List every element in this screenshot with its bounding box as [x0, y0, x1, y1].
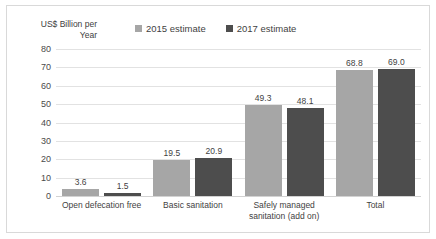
- bar-group: 49.348.1: [239, 49, 330, 196]
- bar-value-label: 3.6: [62, 177, 99, 187]
- y-axis-title: US$ Billion per Year: [19, 19, 97, 41]
- bar-slot: 20.9: [195, 49, 232, 196]
- y-axis-tick-label: 0: [46, 191, 51, 201]
- legend-item-label: 2017 estimate: [237, 23, 297, 34]
- bar[interactable]: [104, 193, 141, 196]
- bar[interactable]: [336, 70, 373, 196]
- plot-area: 80706050403020100 3.61.519.520.949.348.1…: [56, 49, 421, 196]
- bar-value-label: 49.3: [245, 93, 282, 103]
- bar[interactable]: [62, 189, 99, 196]
- y-axis-tick-label: 80: [41, 44, 51, 54]
- bar[interactable]: [378, 69, 415, 196]
- bar[interactable]: [153, 160, 190, 196]
- bar-value-label: 48.1: [287, 96, 324, 106]
- legend-item-label: 2015 estimate: [146, 23, 206, 34]
- bar[interactable]: [245, 105, 282, 196]
- x-axis-category-label: Safely managed sanitation (add on): [239, 200, 330, 222]
- legend-item[interactable]: 2017 estimate: [226, 23, 297, 34]
- x-axis-category-label: Basic sanitation: [147, 200, 238, 222]
- bar-group: 19.520.9: [147, 49, 238, 196]
- y-axis-tick-label: 10: [41, 173, 51, 183]
- bar-group-bars: 3.61.5: [56, 49, 147, 196]
- bar-value-label: 20.9: [195, 146, 232, 156]
- bar-slot: 3.6: [62, 49, 99, 196]
- bar-group: 68.869.0: [330, 49, 421, 196]
- bar-slot: 19.5: [153, 49, 190, 196]
- x-axis-category-label: Total: [330, 200, 421, 222]
- bar-value-label: 69.0: [378, 57, 415, 67]
- y-axis-tick-label: 70: [41, 62, 51, 72]
- legend-item[interactable]: 2015 estimate: [135, 23, 206, 34]
- bar-value-label: 19.5: [153, 148, 190, 158]
- chart-container: US$ Billion per Year 2015 estimate2017 e…: [6, 5, 430, 233]
- bar-groups: 3.61.519.520.949.348.168.869.0: [56, 49, 421, 196]
- gridline: [56, 196, 421, 197]
- legend-swatch-icon: [135, 25, 142, 32]
- y-axis-tick-label: 60: [41, 81, 51, 91]
- y-axis-tick-label: 40: [41, 118, 51, 128]
- bar-group-bars: 19.520.9: [147, 49, 238, 196]
- x-axis-category-label: Open defecation free: [56, 200, 147, 222]
- bar[interactable]: [195, 158, 232, 196]
- bar-group-bars: 49.348.1: [239, 49, 330, 196]
- y-axis-tick-label: 50: [41, 99, 51, 109]
- x-axis-categories: Open defecation freeBasic sanitationSafe…: [56, 200, 421, 222]
- bar-value-label: 68.8: [336, 58, 373, 68]
- legend-swatch-icon: [226, 25, 233, 32]
- bar-slot: 68.8: [336, 49, 373, 196]
- bar-slot: 1.5: [104, 49, 141, 196]
- bar-slot: 49.3: [245, 49, 282, 196]
- y-axis-tick-label: 30: [41, 136, 51, 146]
- bar[interactable]: [287, 108, 324, 196]
- chart-legend: 2015 estimate2017 estimate: [135, 23, 296, 34]
- bar-value-label: 1.5: [104, 181, 141, 191]
- bar-slot: 48.1: [287, 49, 324, 196]
- bar-group-bars: 68.869.0: [330, 49, 421, 196]
- bar-slot: 69.0: [378, 49, 415, 196]
- y-axis-tick-label: 20: [41, 154, 51, 164]
- bar-group: 3.61.5: [56, 49, 147, 196]
